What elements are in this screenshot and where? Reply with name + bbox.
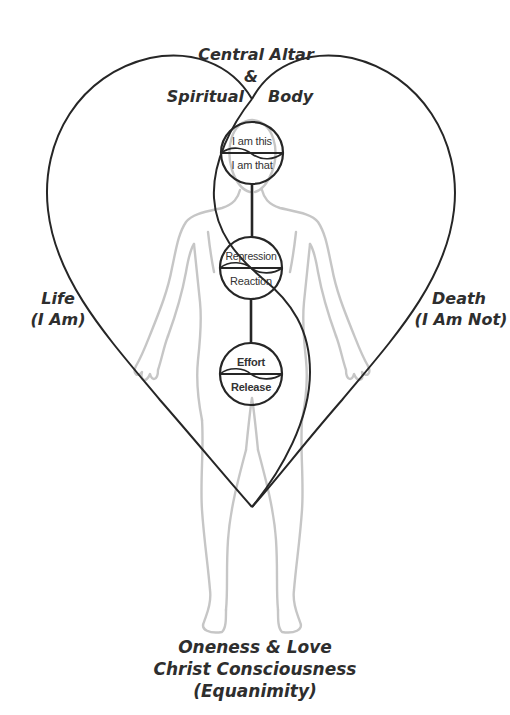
label-i-am: (I Am): [28, 309, 88, 330]
label-oneness-love: Oneness & Love: [155, 637, 355, 658]
circle-head-bottom-text: I am that: [221, 159, 283, 171]
label-i-am-not: (I Am Not): [414, 309, 508, 330]
label-central-altar: Central Altar: [196, 44, 316, 65]
label-life: Life: [28, 288, 88, 309]
label-death: Death: [424, 288, 494, 309]
diagram-canvas: Central Altar & Spiritual Body Life (I A…: [0, 0, 510, 715]
label-spiritual: Spiritual: [164, 86, 244, 107]
heart-right-lobe: [252, 56, 455, 507]
label-christ-consciousness: Christ Consciousness: [140, 659, 370, 680]
label-equanimity: (Equanimity): [155, 681, 355, 702]
circle-belly-top-text: Effort: [220, 356, 282, 368]
circle-belly-bottom-text: Release: [220, 381, 282, 393]
label-body: Body: [268, 86, 328, 107]
circle-heart-bottom-text: Reaction: [220, 275, 282, 287]
circle-heart-top-text: Repression: [220, 250, 282, 262]
circle-head-top-text: I am this: [221, 135, 283, 147]
label-ampersand: &: [236, 66, 266, 87]
